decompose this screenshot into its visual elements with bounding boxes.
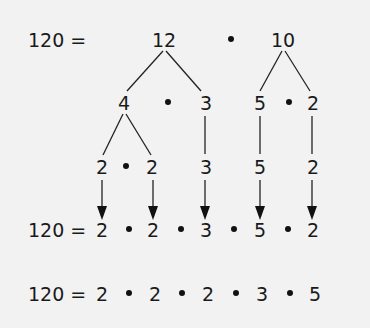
multiply-dot: [231, 226, 237, 232]
leaf-2c: 2: [307, 156, 319, 178]
multiply-dot: [126, 226, 132, 232]
node-5: 5: [254, 92, 266, 114]
leaf-3: 3: [200, 156, 212, 178]
node-10: 10: [271, 29, 295, 51]
multiply-dot: [126, 290, 132, 296]
row1-label: 120 =: [28, 29, 86, 51]
factor: 5: [309, 283, 321, 305]
leaf-2b: 2: [146, 156, 158, 178]
factor: 2: [96, 283, 108, 305]
factor: 3: [200, 219, 212, 241]
factor: 2: [307, 219, 319, 241]
node-4: 4: [118, 92, 130, 114]
row4-label: 120 =: [28, 219, 86, 241]
row5-label: 120 =: [28, 283, 86, 305]
factor: 2: [202, 283, 214, 305]
factor: 2: [147, 219, 159, 241]
multiply-dot: [165, 99, 171, 105]
leaf-5: 5: [254, 156, 266, 178]
factor: 2: [96, 219, 108, 241]
leaf-2a: 2: [96, 156, 108, 178]
node-2: 2: [307, 92, 319, 114]
multiply-dot: [286, 99, 292, 105]
node-12: 12: [152, 29, 176, 51]
factor-tree-diagram: 120 = 12 10 4 3 5 2 2 2 3 5 2 120 = 2 2 …: [0, 0, 370, 328]
multiply-dot: [178, 226, 184, 232]
factor: 5: [254, 219, 266, 241]
multiply-dot: [123, 163, 129, 169]
node-3: 3: [200, 92, 212, 114]
multiply-dot: [233, 290, 239, 296]
multiply-dot: [287, 290, 293, 296]
factor: 2: [149, 283, 161, 305]
multiply-dot: [285, 226, 291, 232]
multiply-dot: [228, 36, 234, 42]
multiply-dot: [179, 290, 185, 296]
factor: 3: [256, 283, 268, 305]
